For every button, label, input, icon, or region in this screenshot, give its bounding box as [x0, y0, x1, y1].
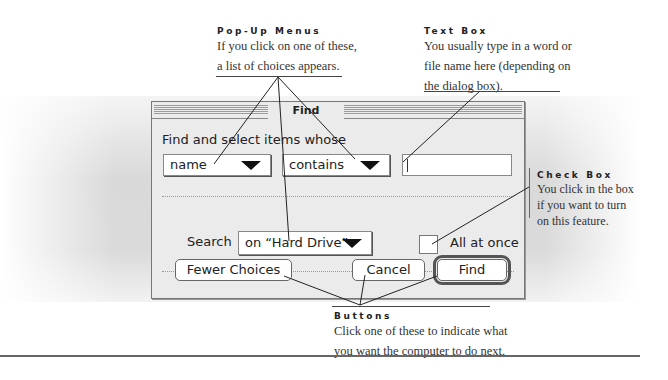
fewer-choices-button[interactable]: Fewer Choices — [175, 259, 292, 281]
operator-popup-menu[interactable]: contains — [282, 154, 390, 176]
callout-textbox-rule — [424, 91, 560, 92]
divider — [162, 196, 514, 197]
callout-textbox-text: You usually type in a word or file name … — [424, 36, 572, 96]
callout-checkbox-line1: You click in the box — [537, 181, 634, 197]
text-cursor-icon — [407, 159, 408, 172]
callout-checkbox-rule — [529, 168, 530, 218]
callout-checkbox-heading: Check Box — [537, 170, 613, 180]
callout-textbox-line2: file name here (depending on — [424, 56, 572, 76]
callout-textbox-line3: the dialog box). — [424, 76, 572, 96]
callout-buttons-rule — [332, 306, 490, 307]
page-bottom-rule — [0, 355, 640, 357]
find-prompt-label: Find and select items whose — [162, 132, 346, 147]
field-popup-value: name — [170, 157, 207, 172]
callout-popup-heading: Pop-Up Menus — [217, 26, 321, 36]
callout-buttons-line2: you want the computer to do next. — [334, 341, 508, 361]
callout-checkbox-line2: if you want to turn — [537, 197, 634, 213]
field-popup-menu[interactable]: name — [163, 154, 271, 176]
callout-textbox-heading: Text Box — [424, 26, 488, 36]
callout-popup-line1: If you click on one of these, — [217, 36, 357, 56]
callout-popup-line2: a list of choices appears. — [217, 56, 357, 76]
callout-checkbox-line3: on this feature. — [537, 213, 634, 229]
search-text-input[interactable] — [402, 154, 512, 176]
callout-checkbox-text: You click in the box if you want to turn… — [537, 181, 634, 229]
find-button[interactable]: Find — [437, 259, 507, 281]
dialog-title: Find — [268, 102, 344, 119]
location-popup-value: on “Hard Drive” — [245, 235, 348, 250]
all-at-once-label: All at once — [450, 235, 519, 250]
chevron-down-icon — [241, 161, 261, 170]
callout-buttons-line1: Click one of these to indicate what — [334, 321, 508, 341]
callout-popup-text: If you click on one of these, a list of … — [217, 36, 357, 76]
search-label: Search — [187, 234, 232, 249]
find-dialog: Find Find and select items whose name co… — [151, 101, 525, 299]
location-popup-menu[interactable]: on “Hard Drive” — [238, 231, 372, 255]
all-at-once-checkbox[interactable] — [419, 235, 438, 254]
operator-popup-value: contains — [289, 157, 344, 172]
callout-buttons-heading: Buttons — [334, 311, 392, 321]
callout-popup-rule — [216, 76, 342, 77]
chevron-down-icon — [342, 239, 362, 248]
callout-textbox-line1: You usually type in a word or — [424, 36, 572, 56]
cancel-button[interactable]: Cancel — [352, 259, 425, 281]
chevron-down-icon — [360, 161, 380, 170]
